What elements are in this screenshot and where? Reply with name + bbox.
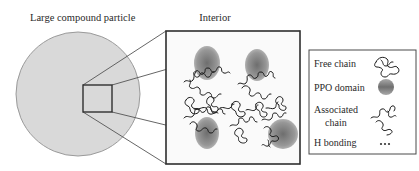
ppo-domain [194,46,220,80]
diagram-canvas: Large compound particle Interior [0,0,419,171]
h-bonding-icon [380,143,390,145]
large-particle [16,32,140,156]
ppo-domain [195,117,219,149]
legend-label: Associated [314,104,358,115]
ppo-domain-icon [378,79,394,95]
legend-item-ppo-domain: PPO domain [314,79,394,95]
legend-label-line2: chain [325,117,347,128]
ppo-domain [268,119,298,149]
legend-label: Free chain [314,58,356,69]
legend-label: H bonding [314,137,357,148]
particle-title: Large compound particle [30,12,136,23]
interior-title: Interior [199,12,231,23]
legend-label: PPO domain [314,82,365,93]
